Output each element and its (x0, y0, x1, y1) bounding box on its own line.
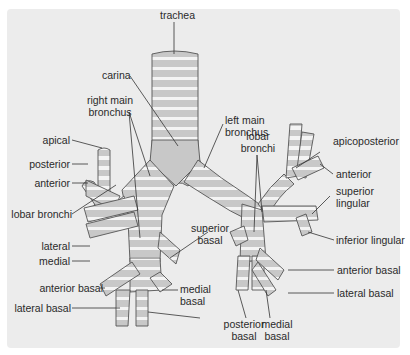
label-anterior-basal-right: anterior basal (5, 282, 103, 294)
label-lobar-bronchi-left: lobar bronchi (240, 130, 276, 154)
label-inferior-lingular: inferior lingular (336, 234, 405, 246)
label-anterior-left: anterior (336, 168, 372, 180)
label-apicoposterior: apicoposterior (333, 135, 399, 147)
label-lateral-basal-left: lateral basal (337, 287, 394, 299)
label-medial-basal-left: medial basal (260, 318, 294, 342)
label-superior-basal-right: superior basal (190, 222, 230, 246)
label-lobar-bronchi-right: lobar bronchi (10, 208, 72, 220)
label-trachea: trachea (160, 9, 195, 21)
label-carina: carina (102, 69, 131, 81)
label-lateral-basal-right: lateral basal (5, 302, 71, 314)
label-posterior: posterior (20, 158, 70, 170)
label-anterior-basal-left: anterior basal (337, 264, 401, 276)
label-lateral: lateral (20, 240, 70, 252)
label-superior-lingular: superior lingular (336, 185, 374, 209)
label-apical: apical (20, 134, 70, 146)
label-anterior-right: anterior (20, 177, 70, 189)
label-medial: medial (20, 255, 70, 267)
label-medial-basal-right: medial basal (180, 283, 211, 307)
label-right-main-bronchus: right main bronchus (85, 94, 135, 118)
